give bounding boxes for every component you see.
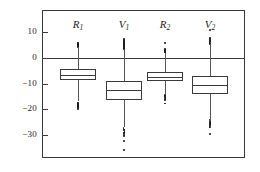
zero-reference-line [42,58,245,59]
boxplot-outlier-point [77,44,79,46]
boxplot-outlier-point [77,43,79,45]
boxplot-outlier-point [123,140,125,142]
boxplot-outlier-point [123,129,125,131]
y-axis-tick-label: −10 [3,79,37,88]
boxplot-outlier-point [164,99,166,101]
group-label-v2: V2 [180,19,240,31]
boxplot-median-line [60,75,96,76]
y-axis-tick-label: −20 [3,104,37,113]
boxplot-outlier-point [123,47,125,49]
y-axis-tick [42,135,48,136]
boxplot-outlier-point [123,132,125,134]
boxplot-outlier-point [123,44,125,46]
boxplot-median-line [106,90,142,91]
y-axis-tick [42,84,48,85]
boxplot-whisker-lower [124,100,125,127]
boxplot-figure: 100−10−20−30R1V1R2V2 [0,0,260,172]
y-axis-tick [42,32,48,33]
boxplot-outlier-point [209,133,211,135]
boxplot-whisker-upper [165,53,166,72]
y-axis-tick-label: 10 [3,27,37,36]
boxplot-outlier-point [209,42,211,44]
boxplot-median-line [147,77,183,78]
boxplot-whisker-upper [210,45,211,76]
boxplot-outlier-point [123,42,125,44]
group-label-subscript: 1 [125,23,129,32]
boxplot-outlier-point [77,108,79,110]
boxplot-whisker-upper [78,48,79,70]
y-axis-tick [42,109,48,110]
boxplot-median-line [192,85,228,86]
boxplot-whisker-lower [210,94,211,120]
boxplot-whisker-lower [78,80,79,102]
boxplot-outlier-point [123,38,125,40]
boxplot-outlier-point [209,40,211,42]
boxplot-outlier-point [164,42,166,44]
boxplot-whisker-upper [124,50,125,81]
y-axis-tick-label: 0 [3,53,37,62]
boxplot-outlier-point [209,121,211,123]
group-label-subscript: 2 [211,23,215,32]
group-label-subscript: 2 [166,23,170,32]
y-axis-tick-label: −30 [3,130,37,139]
boxplot-whisker-lower [165,81,166,94]
boxplot-outlier-point [123,149,125,151]
group-label-subscript: 1 [79,23,83,32]
